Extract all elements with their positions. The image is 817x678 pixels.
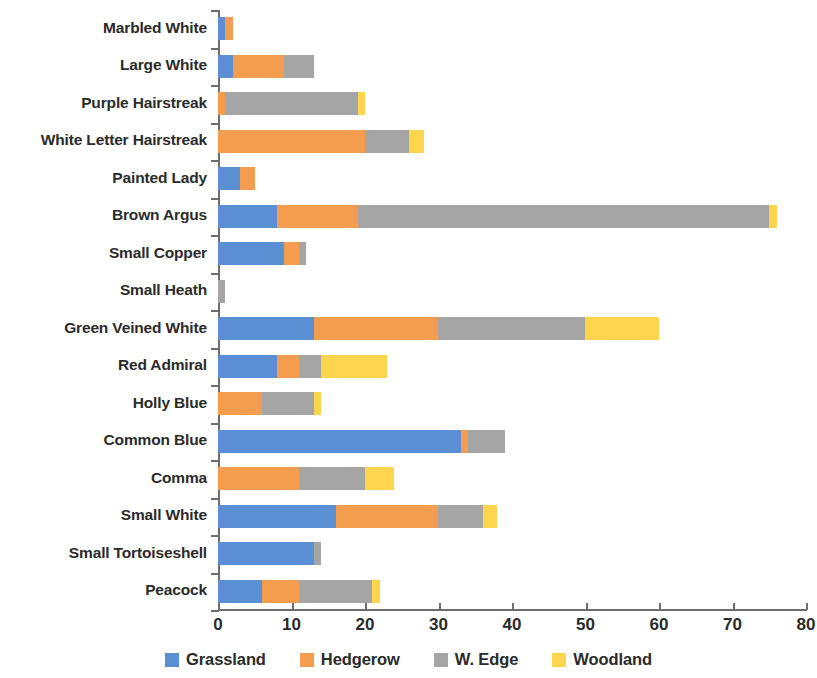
stacked-bar[interactable] [218, 317, 659, 340]
bar-segment-hedgerow[interactable] [284, 242, 299, 265]
bar-row [218, 48, 806, 86]
bar-segment-hedgerow[interactable] [461, 430, 468, 453]
category-label: Small Copper [0, 244, 207, 262]
bar-row [218, 198, 806, 236]
bar-segment-grassland[interactable] [218, 205, 277, 228]
bar-segment-grassland[interactable] [218, 242, 284, 265]
stacked-bar[interactable] [218, 467, 394, 490]
bar-row [218, 385, 806, 423]
x-axis-tick-label: 50 [556, 615, 616, 635]
bar-segment-w-edge[interactable] [468, 430, 505, 453]
bar-segment-w-edge[interactable] [358, 205, 770, 228]
stacked-bar[interactable] [218, 505, 497, 528]
bar-segment-w-edge[interactable] [218, 280, 225, 303]
x-axis-tick-label: 10 [262, 615, 322, 635]
bar-segment-hedgerow[interactable] [336, 505, 439, 528]
category-label: Large White [0, 56, 207, 74]
stacked-bar[interactable] [218, 430, 505, 453]
bar-segment-grassland[interactable] [218, 505, 336, 528]
bar-segment-w-edge[interactable] [365, 130, 409, 153]
bar-segment-grassland[interactable] [218, 167, 240, 190]
x-axis-tick-label: 80 [776, 615, 817, 635]
bar-segment-hedgerow[interactable] [277, 205, 358, 228]
stacked-bar[interactable] [218, 280, 225, 303]
category-label: Comma [0, 469, 207, 487]
bar-row [218, 235, 806, 273]
bar-segment-woodland[interactable] [409, 130, 424, 153]
stacked-bar[interactable] [218, 17, 233, 40]
bar-segment-w-edge[interactable] [314, 542, 321, 565]
bar-segment-w-edge[interactable] [284, 55, 313, 78]
x-axis-tick [806, 603, 808, 610]
category-label: Purple Hairstreak [0, 94, 207, 112]
stacked-bar[interactable] [218, 542, 321, 565]
bar-segment-woodland[interactable] [321, 355, 387, 378]
stacked-bar[interactable] [218, 55, 314, 78]
bar-segment-grassland[interactable] [218, 317, 314, 340]
legend-item[interactable]: W. Edge [434, 650, 518, 669]
bar-row [218, 348, 806, 386]
stacked-bar[interactable] [218, 130, 424, 153]
stacked-bar[interactable] [218, 167, 255, 190]
chart-legend: GrasslandHedgerowW. EdgeWoodland [0, 650, 817, 669]
bar-segment-hedgerow[interactable] [225, 17, 232, 40]
bar-segment-hedgerow[interactable] [262, 580, 299, 603]
legend-item[interactable]: Grassland [165, 650, 266, 669]
bar-segment-hedgerow[interactable] [314, 317, 439, 340]
bar-segment-woodland[interactable] [314, 392, 321, 415]
legend-item[interactable]: Woodland [552, 650, 652, 669]
x-axis-tick-label: 0 [188, 615, 248, 635]
category-label: Common Blue [0, 431, 207, 449]
bar-row [218, 460, 806, 498]
bar-segment-hedgerow[interactable] [240, 167, 255, 190]
bar-row [218, 273, 806, 311]
bar-segment-hedgerow[interactable] [233, 55, 284, 78]
x-axis-tick-label: 40 [482, 615, 542, 635]
bar-segment-w-edge[interactable] [438, 505, 482, 528]
x-axis-tick-label: 20 [335, 615, 395, 635]
stacked-bar[interactable] [218, 355, 387, 378]
stacked-bar[interactable] [218, 392, 321, 415]
bar-row [218, 310, 806, 348]
legend-label: W. Edge [455, 650, 518, 669]
bar-segment-grassland[interactable] [218, 355, 277, 378]
bar-row [218, 10, 806, 48]
bar-row [218, 535, 806, 573]
bar-segment-w-edge[interactable] [299, 242, 306, 265]
category-label: Small Heath [0, 281, 207, 299]
category-label: Holly Blue [0, 394, 207, 412]
bar-segment-woodland[interactable] [769, 205, 776, 228]
stacked-bar[interactable] [218, 205, 777, 228]
category-label: White Letter Hairstreak [0, 131, 207, 149]
bar-segment-grassland[interactable] [218, 17, 225, 40]
woodland-swatch [552, 653, 566, 667]
bar-segment-grassland[interactable] [218, 55, 233, 78]
legend-label: Woodland [573, 650, 652, 669]
bar-segment-w-edge[interactable] [299, 580, 373, 603]
bar-segment-woodland[interactable] [358, 92, 365, 115]
bar-segment-w-edge[interactable] [299, 467, 365, 490]
bar-segment-hedgerow[interactable] [218, 467, 299, 490]
bar-segment-grassland[interactable] [218, 542, 314, 565]
bar-segment-w-edge[interactable] [299, 355, 321, 378]
stacked-bar[interactable] [218, 92, 365, 115]
bar-segment-hedgerow[interactable] [218, 130, 365, 153]
bar-segment-woodland[interactable] [483, 505, 498, 528]
stacked-bar[interactable] [218, 242, 306, 265]
bar-row [218, 160, 806, 198]
bar-segment-woodland[interactable] [585, 317, 659, 340]
bar-segment-hedgerow[interactable] [218, 392, 262, 415]
stacked-bar[interactable] [218, 580, 380, 603]
bar-segment-grassland[interactable] [218, 580, 262, 603]
bar-segment-grassland[interactable] [218, 430, 461, 453]
bar-segment-w-edge[interactable] [225, 92, 357, 115]
bar-segment-woodland[interactable] [365, 467, 394, 490]
bar-row [218, 85, 806, 123]
bar-segment-hedgerow[interactable] [218, 92, 225, 115]
bar-segment-w-edge[interactable] [438, 317, 585, 340]
bar-segment-woodland[interactable] [372, 580, 379, 603]
legend-label: Hedgerow [321, 650, 400, 669]
legend-item[interactable]: Hedgerow [300, 650, 400, 669]
bar-segment-w-edge[interactable] [262, 392, 313, 415]
bar-segment-hedgerow[interactable] [277, 355, 299, 378]
